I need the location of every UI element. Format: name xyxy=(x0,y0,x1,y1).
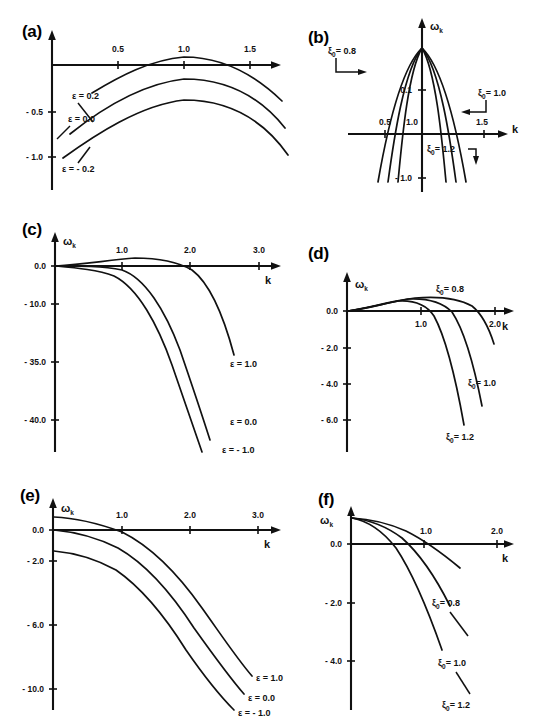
panel-d-yticklabel-3: - 6.0 xyxy=(321,415,338,425)
panel-b-leader-0-arrow xyxy=(358,69,367,75)
panel-c-annotation-eps--1.0: ε = - 1.0 xyxy=(222,445,255,455)
panel-b-ylabel: ωk xyxy=(430,20,443,34)
panel-f-x-axis-arrow xyxy=(504,540,514,548)
panel-a-xticklabel-1: 1.0 xyxy=(178,44,190,54)
panel-f-annotation-xi-1.2: ξ0= 1.2 xyxy=(442,700,470,712)
panel-b-leader-2-arrow xyxy=(473,156,479,165)
panel-e-yticklabel-2: - 6.0 xyxy=(27,620,44,630)
figure-dispersion-curves: (a) 0.5 1.0 1.5 - 0.5 - 1.0 ε = 0.2 xyxy=(0,0,552,718)
panel-b-xticklabel-1: 1.0 xyxy=(406,117,418,127)
panel-c-yticklabel-2: - 35.0 xyxy=(24,357,46,367)
panel-f-yticklabel-0: 0.0 xyxy=(330,539,342,549)
panel-f-annotation-xi-0.8: ξ0= 0.8 xyxy=(432,598,460,610)
panel-c-annotation-eps-0.0: ε = 0.0 xyxy=(230,417,257,427)
panel-f-label: (f) xyxy=(318,490,334,510)
panel-d-curve-xi-1.0 xyxy=(348,299,482,406)
panel-b-annotation-xi-1.0: ξ0= 1.0 xyxy=(478,88,506,100)
panel-f-xticklabel-1: 2.0 xyxy=(491,526,503,536)
panel-a: (a) 0.5 1.0 1.5 - 0.5 - 1.0 ε = 0.2 xyxy=(0,0,290,200)
panel-c-xlabel: k xyxy=(265,274,272,286)
panel-a-label: (a) xyxy=(22,22,42,42)
panel-f-annotation-xi-1.0: ξ0= 1.0 xyxy=(438,658,466,670)
panel-f-yticklabel-1: - 2.0 xyxy=(325,598,342,608)
panel-e-annotation-eps-0.0: ε = 0.0 xyxy=(248,693,275,703)
panel-d-yticklabel-0: 0.0 xyxy=(326,306,338,316)
panel-b-leader-1-arrow xyxy=(461,109,470,115)
panel-d-y-axis-arrow xyxy=(343,272,351,282)
panel-b-x-axis-arrow xyxy=(498,130,508,138)
panel-e-annotation-eps-1.0: ε = 1.0 xyxy=(256,673,283,683)
panel-a-leader-2 xyxy=(78,147,90,163)
panel-b-annotation-xi-1.2: ξ0= 1.2 xyxy=(427,144,455,156)
panel-c-yticklabel-1: - 10.0 xyxy=(24,299,46,309)
panel-c-label: (c) xyxy=(22,220,42,240)
panel-b-leader-0 xyxy=(336,58,360,72)
panel-a-xticklabel-2: 1.5 xyxy=(244,44,256,54)
panel-f-curve-xi-1.2 xyxy=(352,518,442,650)
panel-c-xticklabel-2: 3.0 xyxy=(253,245,265,255)
panel-c-curve-eps--1.0 xyxy=(56,266,202,452)
panel-f-plot: ωk k 1.0 2.0 0.0 - 2.0 - 4.0 ξ0= 0.8 ξ0=… xyxy=(290,490,552,718)
panel-d-xlabel: k xyxy=(502,320,509,332)
panel-b-y-axis-arrow xyxy=(418,18,426,28)
panel-e-curve-eps-0.0 xyxy=(54,530,244,694)
panel-b-label: (b) xyxy=(308,28,329,48)
panel-e-yticklabel-1: - 2.0 xyxy=(27,556,44,566)
panel-e-xticklabel-1: 2.0 xyxy=(184,510,196,520)
panel-e-xticklabel-2: 3.0 xyxy=(252,510,264,520)
panel-f-leader-1 xyxy=(456,672,470,694)
panel-e-curve-eps-1.0 xyxy=(54,517,252,676)
panel-b-leader-1 xyxy=(468,100,486,112)
panel-b-plot: ωk k 0.5 1.0 1.5 0.1 - 1.0 ξ0= 0.8 ξ0= 1… xyxy=(290,0,552,200)
panel-f-yticklabel-2: - 4.0 xyxy=(325,656,342,666)
panel-c: (c) ωk k 1.0 2.0 3.0 0.0 - 10.0 - 35.0 -… xyxy=(0,200,290,460)
panel-d-xticklabel-0: 1.0 xyxy=(415,319,427,329)
panel-f-y-axis-arrow xyxy=(347,506,355,516)
panel-a-annotation-eps-0.2: ε = 0.2 xyxy=(72,91,99,101)
panel-d-plot: ωk k 1.0 2.0 0.0 - 2.0 - 4.0 - 6.0 ξ0= 0… xyxy=(290,240,552,460)
panel-a-curve-eps--0.2 xyxy=(63,100,288,158)
panel-a-annotation-eps--0.2: ε = - 0.2 xyxy=(62,164,95,174)
panel-e-annotation-eps--1.0: ε = - 1.0 xyxy=(238,708,271,718)
panel-e-plot: ωk k 1.0 2.0 3.0 0.0 - 2.0 - 6.0 - 10.0 … xyxy=(0,470,290,718)
panel-b-xlabel: k xyxy=(512,123,519,135)
panel-d-x-axis-arrow xyxy=(504,307,514,315)
panel-a-yticklabel-0: - 0.5 xyxy=(26,107,43,117)
panel-a-leader-1 xyxy=(57,126,70,139)
panel-e-ylabel: ωk xyxy=(61,502,74,516)
panel-b-annotation-xi-0.8: ξ0= 0.8 xyxy=(328,46,356,58)
panel-d-annotation-xi-1.2: ξ0= 1.2 xyxy=(446,432,474,444)
panel-d-annotation-xi-1.0: ξ0= 1.0 xyxy=(468,378,496,390)
panel-d: (d) ωk k 1.0 2.0 0.0 - 2.0 - 4.0 - 6.0 xyxy=(290,240,552,460)
panel-e-curve-eps--1.0 xyxy=(54,551,234,710)
panel-d-label: (d) xyxy=(308,244,329,264)
panel-f-curve-xi-1.0 xyxy=(352,518,450,606)
panel-d-yticklabel-2: - 4.0 xyxy=(321,379,338,389)
panel-c-plot: ωk k 1.0 2.0 3.0 0.0 - 10.0 - 35.0 - 40.… xyxy=(0,200,290,460)
panel-e-xticklabel-0: 1.0 xyxy=(116,510,128,520)
panel-b-xticklabel-2: 1.5 xyxy=(476,117,488,127)
panel-f-ylabel: ωk xyxy=(320,514,333,528)
panel-f: (f) ωk k 1.0 2.0 0.0 - 2.0 - 4.0 ξ0= xyxy=(290,490,552,718)
panel-d-xticklabel-1: 2.0 xyxy=(489,319,501,329)
panel-f-leader-0 xyxy=(450,612,468,636)
panel-e-yticklabel-0: 0.0 xyxy=(32,525,44,535)
panel-b: (b) ωk k 0.5 1.0 1.5 0.1 - 1.0 xyxy=(290,0,552,200)
panel-c-yticklabel-3: - 40.0 xyxy=(24,415,46,425)
panel-a-yticklabel-1: - 1.0 xyxy=(26,152,43,162)
panel-a-x-axis-arrow xyxy=(271,61,281,69)
panel-d-curve-xi-1.2 xyxy=(348,301,464,425)
panel-c-annotation-eps-1.0: ε = 1.0 xyxy=(230,359,257,369)
panel-f-xticklabel-0: 1.0 xyxy=(420,526,432,536)
panel-e: (e) ωk k 1.0 2.0 3.0 0.0 - 2.0 - 6.0 - 1… xyxy=(0,470,290,718)
panel-e-label: (e) xyxy=(20,486,40,506)
panel-d-ylabel: ωk xyxy=(355,278,368,292)
panel-d-annotation-xi-0.8: ξ0= 0.8 xyxy=(436,284,464,296)
panel-e-x-axis-arrow xyxy=(271,526,281,534)
panel-c-yticklabel-0: 0.0 xyxy=(34,261,46,271)
panel-a-plot: 0.5 1.0 1.5 - 0.5 - 1.0 ε = 0.2 ε = 0.0 … xyxy=(0,0,290,200)
panel-c-xticklabel-1: 2.0 xyxy=(184,245,196,255)
panel-a-xticklabel-0: 0.5 xyxy=(112,44,124,54)
panel-c-x-axis-arrow xyxy=(271,262,281,270)
panel-e-y-axis-arrow xyxy=(49,498,57,508)
